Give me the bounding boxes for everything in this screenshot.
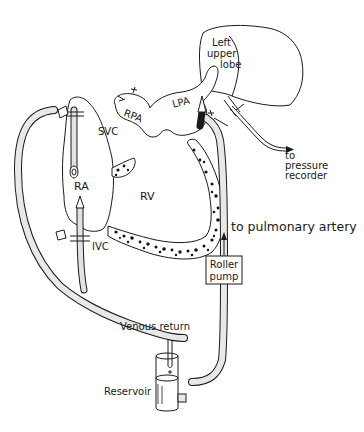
right-ventricle-wall: [108, 139, 224, 259]
roller-pump[interactable]: Roller pump: [206, 256, 242, 284]
ra-label: RA: [74, 180, 89, 193]
rv-label: RV: [140, 190, 155, 203]
lobe-label-2: upper: [207, 48, 237, 59]
roller-pump-label-2: pump: [210, 271, 239, 282]
roller-pump-label-1: Roller: [210, 259, 239, 270]
lobe-label-1: Left: [212, 37, 231, 48]
lobe-label-3: lobe: [220, 59, 241, 70]
reservoir-label: Reservoir: [104, 386, 152, 397]
svc-label: SVC: [98, 126, 118, 137]
pressure-catheter[interactable]: [224, 96, 294, 153]
perfusion-diagram: Roller pump Left upper lobe RPA LPA SVC …: [0, 0, 364, 432]
pressure-label-3: recorder: [285, 170, 328, 181]
to-pulmonary-artery-label: to pulmonary artery: [231, 219, 357, 234]
right-atrium: [63, 97, 114, 231]
reservoir[interactable]: [156, 340, 186, 411]
venous-return-label: Venous return: [120, 321, 190, 332]
ivc-label: IVC: [92, 241, 109, 252]
